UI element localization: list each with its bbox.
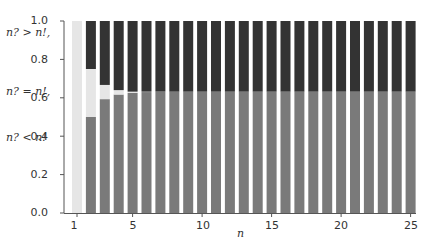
bar-segment xyxy=(281,21,291,92)
bar-segment xyxy=(350,92,360,213)
x-tick-label: 1 xyxy=(62,219,86,232)
bar-segment xyxy=(392,21,402,92)
bar-segment xyxy=(183,21,193,92)
y-tick-label: 1.0 xyxy=(18,14,48,27)
bar-segment xyxy=(281,92,291,213)
bar-segment xyxy=(406,92,416,213)
bar-segment xyxy=(155,92,165,213)
bar-segment xyxy=(239,21,249,92)
bar-segment xyxy=(100,99,110,213)
bar-segment xyxy=(392,92,402,213)
bar-segment xyxy=(197,92,207,213)
bar-segment xyxy=(114,95,124,213)
y-tick-label: 0.0 xyxy=(18,206,48,219)
bar-segment xyxy=(128,92,138,93)
bar-segment xyxy=(322,21,332,92)
bar-segment xyxy=(114,21,124,90)
bar-segment xyxy=(308,21,318,92)
bar-segment xyxy=(322,92,332,213)
bar-segment xyxy=(364,92,374,213)
x-tick-label: 25 xyxy=(399,219,423,232)
plot-area xyxy=(0,0,429,244)
x-tick-label: 20 xyxy=(329,219,353,232)
x-tick-label: 15 xyxy=(260,219,284,232)
bar-segment xyxy=(253,21,263,92)
bar-segment xyxy=(294,21,304,92)
bar-segment xyxy=(86,21,96,69)
bar-segment xyxy=(294,92,304,213)
bar-segment xyxy=(169,92,179,213)
bar-segment xyxy=(406,21,416,92)
bar-segment xyxy=(378,21,388,92)
y-tick-label: 0.6 xyxy=(18,91,48,104)
bar-segment xyxy=(336,21,346,92)
bar-segment xyxy=(100,21,110,85)
bar-segment xyxy=(86,117,96,213)
bar-segment xyxy=(308,92,318,213)
bar-segment xyxy=(336,92,346,213)
bar-segment xyxy=(267,92,277,213)
x-tick-label: 5 xyxy=(121,219,145,232)
x-axis-title: n xyxy=(237,227,244,240)
bar-segment xyxy=(267,21,277,92)
bar-segment xyxy=(197,21,207,92)
x-tick-label: 10 xyxy=(191,219,215,232)
bar-segment xyxy=(128,21,138,92)
bar-segment xyxy=(100,85,110,99)
bar-segment xyxy=(86,69,96,117)
bar-segment xyxy=(155,21,165,92)
bar-segment xyxy=(211,21,221,92)
bar-segment xyxy=(253,92,263,213)
bar-segment xyxy=(378,92,388,213)
bar-segment xyxy=(183,92,193,213)
stacked-bar-chart: n? > n!, n? = n!, n? < n! 1.0 0.8 0.6 0.… xyxy=(0,0,429,244)
bar-segment xyxy=(239,92,249,213)
bar-segment xyxy=(350,21,360,92)
bar-segment xyxy=(114,90,124,94)
y-tick-label: 0.8 xyxy=(18,53,48,66)
bar-segment xyxy=(142,92,152,213)
legend-label-greater: n? > n!, xyxy=(6,26,50,39)
y-tick-label: 0.4 xyxy=(18,130,48,143)
bar-segment xyxy=(225,92,235,213)
bar-segment xyxy=(72,21,82,213)
y-tick-label: 0.2 xyxy=(18,168,48,181)
bar-segment xyxy=(128,93,138,213)
bar-segment xyxy=(142,21,152,92)
bar-segment xyxy=(225,21,235,92)
bar-segment xyxy=(364,21,374,92)
bar-segment xyxy=(211,92,221,213)
bar-segment xyxy=(169,21,179,92)
